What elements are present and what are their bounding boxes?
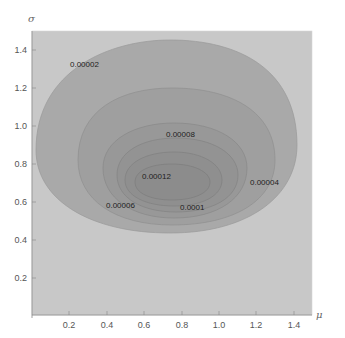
y-tick-label: 1.4 bbox=[14, 45, 27, 55]
contour-label: 0.0001 bbox=[180, 203, 205, 212]
x-tick-label: 0.6 bbox=[138, 320, 151, 330]
y-tick-label: 0.8 bbox=[14, 159, 27, 169]
y-tick-label: 1.2 bbox=[14, 83, 27, 93]
y-tick-label: 0.4 bbox=[14, 235, 27, 245]
contour-label: 0.00006 bbox=[106, 201, 135, 210]
contour-0.00012 bbox=[135, 164, 210, 200]
x-tick-label: 0.4 bbox=[101, 320, 114, 330]
x-tick-label: 1.2 bbox=[250, 320, 263, 330]
contour-label: 0.00012 bbox=[142, 172, 171, 181]
contour-label: 0.00008 bbox=[166, 130, 195, 139]
x-tick-labels: 0.2 0.4 0.6 0.8 1.0 1.2 1.4 bbox=[63, 320, 301, 330]
contour-label: 0.00004 bbox=[250, 178, 279, 187]
y-tick-label: 1.0 bbox=[14, 121, 27, 131]
y-axis-label: σ bbox=[28, 13, 36, 24]
x-axis-label: μ bbox=[316, 309, 323, 320]
y-tick-labels: 0.2 0.4 0.6 0.8 1.0 1.2 1.4 bbox=[14, 45, 27, 283]
x-tick-label: 1.4 bbox=[288, 320, 301, 330]
contour-label: 0.00002 bbox=[70, 60, 99, 69]
y-tick-label: 0.6 bbox=[14, 197, 27, 207]
y-tick-label: 0.2 bbox=[14, 273, 27, 283]
x-tick-label: 0.2 bbox=[63, 320, 76, 330]
x-tick-label: 1.0 bbox=[213, 320, 226, 330]
x-tick-label: 0.8 bbox=[176, 320, 189, 330]
contour-plot: 0.2 0.4 0.6 0.8 1.0 1.2 1.4 0.2 0.4 0.6 … bbox=[0, 0, 345, 338]
